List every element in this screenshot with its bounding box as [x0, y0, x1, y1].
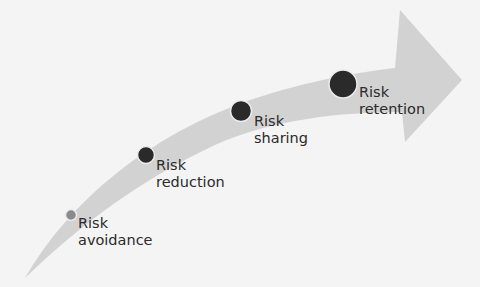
- label-line2: retention: [359, 101, 425, 118]
- marker-risk-retention: [329, 70, 357, 98]
- label-risk-sharing: Risk sharing: [254, 113, 308, 147]
- label-line1: Risk: [156, 157, 225, 174]
- label-line2: reduction: [156, 174, 225, 191]
- label-line2: sharing: [254, 130, 308, 147]
- label-risk-retention: Risk retention: [359, 84, 425, 118]
- curved-arrow-shape: [0, 0, 480, 287]
- marker-risk-reduction: [138, 147, 155, 164]
- label-line2: avoidance: [78, 232, 153, 249]
- marker-risk-sharing: [231, 101, 252, 122]
- label-line1: Risk: [78, 215, 153, 232]
- label-risk-avoidance: Risk avoidance: [78, 215, 153, 249]
- label-risk-reduction: Risk reduction: [156, 157, 225, 191]
- label-line1: Risk: [254, 113, 308, 130]
- diagram-canvas: Risk avoidance Risk reduction Risk shari…: [0, 0, 480, 287]
- label-line1: Risk: [359, 84, 425, 101]
- marker-risk-avoidance: [66, 210, 77, 221]
